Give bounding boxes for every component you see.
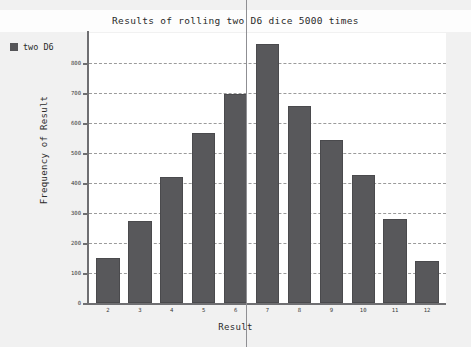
y-tick-label: 200 [71,240,81,246]
y-axis-line [87,31,89,305]
legend-swatch-icon [10,43,18,51]
x-tick-label: 9 [330,307,333,313]
y-tick-mark [83,63,88,65]
y-tick-label: 700 [71,90,81,96]
x-tick-label: 5 [202,307,205,313]
x-tick-label: 6 [234,307,237,313]
bar-6[interactable] [224,94,247,303]
y-tick-label: 500 [71,150,81,156]
legend-label-two-d6: two D6 [23,42,54,52]
bar-8[interactable] [288,106,311,303]
y-tick-mark [83,303,88,305]
chart-title: Results of rolling two D6 dice 5000 time… [0,15,471,26]
x-axis-line [87,303,446,305]
chart-window: ........................ Results of roll… [0,0,471,347]
y-tick-mark [83,123,88,125]
y-tick-mark [83,93,88,95]
y-tick-label: 100 [71,270,81,276]
y-axis-title: Frequency of Result [39,96,49,205]
bar-slot [252,33,284,303]
vertical-cursor-line [246,0,247,347]
x-tick-label: 4 [170,307,173,313]
chart-legend: two D6 [10,42,54,52]
x-tick-label: 3 [138,307,141,313]
bar-slot [92,33,124,303]
y-tick-mark [83,153,88,155]
y-tick-mark [83,213,88,215]
x-tick-label: 8 [298,307,301,313]
clipped-top-text: ........................ [8,0,208,5]
bars-layer [89,33,446,303]
y-tick-label: 400 [71,180,81,186]
bar-slot [315,33,347,303]
y-tick-label: 300 [71,210,81,216]
bar-3[interactable] [128,221,151,303]
y-tick-label: 800 [71,60,81,66]
x-tick-label: 11 [392,307,399,313]
bar-slot [347,33,379,303]
bar-2[interactable] [96,258,119,303]
y-tick-label: 600 [71,120,81,126]
bar-9[interactable] [320,140,343,304]
bar-11[interactable] [383,219,406,303]
x-axis-title: Result [0,322,471,332]
bar-10[interactable] [352,175,375,303]
bar-slot [411,33,443,303]
x-tick-label: 2 [106,307,109,313]
y-tick-mark [83,243,88,245]
y-tick-label: 0 [78,300,81,306]
bar-7[interactable] [256,44,279,303]
bar-slot [124,33,156,303]
bar-5[interactable] [192,133,215,303]
x-tick-label: 12 [424,307,431,313]
bar-slot [283,33,315,303]
y-tick-mark [83,183,88,185]
bar-12[interactable] [415,261,438,303]
plot-area: 0100200300400500600700800 23456789101112 [89,33,446,303]
bar-4[interactable] [160,177,183,303]
bar-slot [379,33,411,303]
x-tick-label: 10 [360,307,367,313]
bar-slot [188,33,220,303]
bar-slot [156,33,188,303]
x-tick-label: 7 [266,307,269,313]
y-tick-mark [83,273,88,275]
